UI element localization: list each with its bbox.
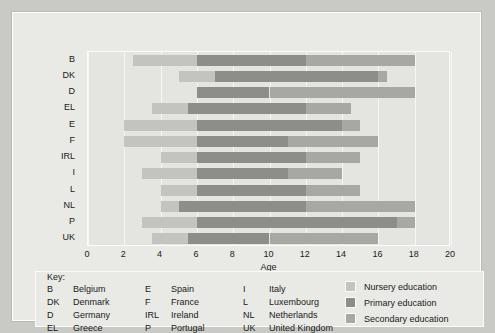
bar-segment-p-secondary (397, 217, 415, 228)
abbreviation-code-p: P (145, 323, 171, 333)
bar-segment-nl-primary (179, 201, 306, 212)
abbreviation-name-f: France (171, 297, 243, 310)
bar-row-irl (88, 152, 449, 163)
x-tick-10: 10 (263, 249, 273, 259)
abbreviation-name-i: Italy (269, 284, 343, 297)
x-tick-4: 4 (157, 249, 162, 259)
legend-item-primary: Primary education (345, 297, 449, 308)
bar-segment-nl-nursery (161, 201, 179, 212)
x-tick-20: 20 (445, 249, 455, 259)
abbreviation-row: DGermanyIRLIrelandNLNetherlands (47, 310, 343, 323)
legend-label: Nursery education (364, 282, 437, 292)
y-axis-label-b: B (69, 54, 75, 65)
gridline (451, 52, 452, 245)
bar-segment-b-primary (197, 55, 306, 66)
abbreviation-name-irl: Ireland (171, 310, 243, 323)
y-axis-label-p: P (69, 216, 75, 227)
bar-segment-p-nursery (142, 217, 196, 228)
abbreviation-row: BBelgiumESpainIItaly (47, 284, 343, 297)
bar-segment-l-nursery (161, 185, 197, 196)
abbreviation-name-nl: Netherlands (269, 310, 343, 323)
bar-row-el (88, 103, 449, 114)
x-axis-ticks: 02468101214161820 (87, 246, 450, 262)
y-axis-label-d: D (69, 86, 76, 97)
bar-row-i (88, 168, 449, 179)
y-axis-label-l: L (70, 184, 75, 195)
bar-segment-nl-secondary (306, 201, 415, 212)
abbreviation-code-b: B (47, 284, 73, 297)
abbreviation-code-dk: DK (47, 297, 73, 310)
bar-segment-d-primary (197, 87, 270, 98)
x-tick-6: 6 (193, 249, 198, 259)
abbreviation-row: DKDenmarkFFranceLLuxembourg (47, 297, 343, 310)
bar-segment-el-secondary (306, 103, 351, 114)
abbreviation-code-f: F (145, 297, 171, 310)
bar-row-b (88, 55, 449, 66)
chart-page: BDKDELEFIRLILNLPUK 02468101214161820 Age… (0, 0, 495, 333)
page-frame: BDKDELEFIRLILNLPUK 02468101214161820 Age… (12, 12, 481, 321)
abbreviation-name-l: Luxembourg (269, 297, 343, 310)
x-tick-14: 14 (336, 249, 346, 259)
abbreviation-name-d: Germany (73, 310, 145, 323)
bar-segment-e-primary (197, 120, 342, 131)
abbreviation-row: ELGreecePPortugalUKUnited Kingdom (47, 323, 343, 333)
legend-label: Secondary education (364, 314, 449, 324)
bar-segment-irl-nursery (161, 152, 197, 163)
bar-segment-f-secondary (288, 136, 379, 147)
bar-segment-e-secondary (342, 120, 360, 131)
bar-row-l (88, 185, 449, 196)
abbreviation-name-b: Belgium (73, 284, 145, 297)
abbreviation-code-uk: UK (243, 323, 269, 333)
bar-segment-i-primary (197, 168, 288, 179)
y-axis-label-irl: IRL (61, 151, 75, 162)
bar-segment-i-nursery (142, 168, 196, 179)
abbreviation-code-irl: IRL (145, 310, 171, 323)
plot-area (87, 51, 450, 246)
bar-segment-i-secondary (288, 168, 342, 179)
bar-segment-b-secondary (306, 55, 415, 66)
bar-row-f (88, 136, 449, 147)
y-axis-labels: BDKDELEFIRLILNLPUK (13, 51, 83, 246)
bar-rows (88, 52, 449, 245)
bar-segment-dk-secondary (378, 71, 387, 82)
y-axis-label-el: EL (64, 102, 75, 113)
bar-segment-l-primary (197, 185, 306, 196)
y-axis-label-e: E (69, 119, 75, 130)
x-tick-12: 12 (300, 249, 310, 259)
bar-segment-p-primary (197, 217, 397, 228)
bar-segment-irl-secondary (306, 152, 360, 163)
abbreviation-code-l: L (243, 297, 269, 310)
abbreviation-code-el: EL (47, 323, 73, 333)
x-tick-2: 2 (121, 249, 126, 259)
bar-segment-dk-nursery (179, 71, 215, 82)
y-axis-label-f: F (70, 135, 76, 146)
abbreviation-code-i: I (243, 284, 269, 297)
bar-row-uk (88, 233, 449, 244)
legend-swatch-icon (345, 281, 356, 292)
y-axis-label-i: I (72, 167, 75, 178)
x-tick-8: 8 (230, 249, 235, 259)
y-axis-label-uk: UK (62, 232, 75, 243)
legend-swatch-icon (345, 297, 356, 308)
bar-segment-uk-nursery (152, 233, 188, 244)
x-tick-0: 0 (84, 249, 89, 259)
bar-segment-f-primary (197, 136, 288, 147)
bar-row-e (88, 120, 449, 131)
legend-label: Primary education (364, 298, 437, 308)
abbreviation-grid: BBelgiumESpainIItalyDKDenmarkFFranceLLux… (47, 284, 343, 333)
x-tick-16: 16 (372, 249, 382, 259)
abbreviation-code-e: E (145, 284, 171, 297)
bar-row-d (88, 87, 449, 98)
bar-segment-uk-primary (188, 233, 270, 244)
bar-segment-el-primary (188, 103, 306, 114)
abbreviation-name-el: Greece (73, 323, 145, 333)
bar-row-p (88, 217, 449, 228)
bar-segment-dk-primary (215, 71, 378, 82)
abbreviation-name-uk: United Kingdom (269, 323, 343, 333)
bar-segment-el-nursery (152, 103, 188, 114)
y-axis-label-dk: DK (62, 70, 75, 81)
abbreviation-code-d: D (47, 310, 73, 323)
bar-segment-f-nursery (124, 136, 197, 147)
bar-segment-e-nursery (124, 120, 197, 131)
bar-segment-l-secondary (306, 185, 360, 196)
